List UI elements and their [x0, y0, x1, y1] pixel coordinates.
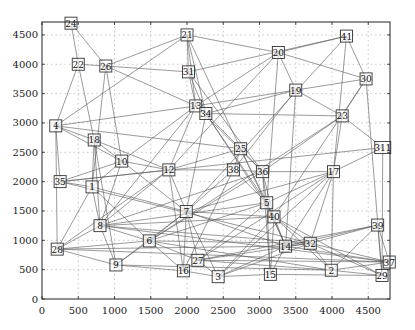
y-tick-label: 3000 — [13, 117, 38, 128]
y-tick-label: 4500 — [13, 29, 38, 40]
graph-node: 21 — [181, 29, 193, 41]
graph-edge — [57, 249, 116, 265]
graph-node: 17 — [327, 166, 339, 178]
node-label: 10 — [116, 157, 128, 167]
node-label: 4 — [53, 121, 59, 131]
x-tick-label: 2500 — [211, 305, 236, 316]
node-label: 40 — [268, 212, 280, 222]
graph-node: 34 — [200, 108, 212, 120]
graph-node: 10 — [116, 155, 128, 167]
node-label: 17 — [328, 167, 340, 177]
node-label: 30 — [360, 74, 372, 84]
graph-edge — [149, 203, 266, 241]
node-label: 311 — [374, 143, 391, 153]
graph-node: 23 — [336, 110, 348, 122]
node-label: 15 — [265, 270, 277, 280]
node-label: 36 — [257, 167, 269, 177]
graph-node: 6 — [143, 235, 155, 247]
y-tick-label: 1500 — [13, 205, 38, 216]
y-tick-label: 0 — [32, 294, 38, 305]
graph-node: 26 — [100, 60, 112, 72]
node-label: 31 — [183, 67, 194, 77]
graph-node: 37 — [383, 256, 395, 268]
node-label: 22 — [73, 60, 84, 70]
y-tick-label: 4000 — [13, 59, 38, 70]
x-tick-label: 1000 — [102, 305, 127, 316]
node-label: 19 — [290, 86, 302, 96]
graph-node: 5 — [261, 197, 273, 209]
y-tick-label: 3500 — [13, 88, 38, 99]
node-label: 14 — [280, 242, 292, 252]
node-label: 1 — [89, 182, 95, 192]
node-label: 5 — [264, 198, 270, 208]
graph-node: 20 — [272, 47, 284, 59]
node-label: 25 — [235, 144, 247, 154]
node-label: 26 — [100, 62, 112, 72]
graph-node: 28 — [51, 243, 63, 255]
node-label: 41 — [341, 32, 352, 42]
x-tick-label: 500 — [69, 305, 88, 316]
graph-node: 25 — [235, 143, 247, 155]
x-tick-label: 3500 — [283, 305, 308, 316]
graph-node: 38 — [227, 164, 239, 176]
graph-edge — [286, 90, 296, 246]
graph-node: 30 — [360, 73, 372, 85]
node-label: 29 — [376, 271, 388, 281]
x-tick-label: 4500 — [356, 305, 381, 316]
graph-edge — [278, 53, 366, 79]
y-tick-label: 2500 — [13, 147, 38, 158]
node-label: 28 — [51, 245, 63, 255]
graph-node: 12 — [163, 164, 175, 176]
node-label: 8 — [97, 221, 103, 231]
x-tick-label: 0 — [39, 305, 45, 316]
node-label: 3 — [215, 272, 221, 282]
graph-edge — [56, 64, 78, 126]
graph-edge — [94, 140, 169, 170]
graph-node: 16 — [177, 265, 189, 277]
graph-edge — [187, 35, 278, 53]
node-label: 35 — [54, 177, 66, 187]
node-label: 27 — [192, 256, 204, 266]
graph-edge — [149, 241, 198, 260]
y-tick-label: 2000 — [13, 176, 38, 187]
graph-node: 32 — [304, 237, 316, 249]
graph-node: 4 — [50, 120, 62, 132]
x-tick-label: 4000 — [319, 305, 344, 316]
graph-node: 29 — [376, 270, 388, 282]
graph-node: 18 — [88, 134, 100, 146]
graph-node: 24 — [65, 17, 77, 29]
graph-edge — [196, 90, 296, 106]
node-label: 16 — [178, 266, 190, 276]
node-label: 32 — [305, 239, 316, 249]
graph-edge — [149, 116, 342, 241]
node-label: 9 — [113, 260, 119, 270]
node-label: 20 — [273, 48, 285, 58]
node-label: 38 — [228, 165, 240, 175]
graph-edge — [274, 79, 366, 217]
graph-edge — [56, 106, 196, 126]
graph-edge — [382, 148, 383, 276]
graph-node: 36 — [256, 166, 268, 178]
graph-edge — [206, 90, 296, 113]
graph-edge — [106, 66, 122, 161]
graph-node: 9 — [110, 259, 122, 271]
node-label: 6 — [146, 236, 152, 246]
network-plot: 2422262131204130191334234183112510123836… — [0, 0, 415, 330]
node-label: 12 — [163, 165, 174, 175]
node-label: 23 — [336, 111, 348, 121]
node-label: 2 — [328, 266, 334, 276]
graph-node: 39 — [372, 219, 384, 231]
x-tick-label: 2000 — [174, 305, 199, 316]
x-tick-label: 1500 — [138, 305, 163, 316]
graph-edge — [56, 126, 241, 149]
graph-node: 22 — [72, 58, 84, 70]
node-label: 34 — [200, 109, 212, 119]
node-label: 37 — [384, 258, 396, 268]
node-label: 24 — [65, 19, 77, 29]
graph-edge — [218, 274, 270, 276]
graph-node: 27 — [192, 254, 204, 266]
graph-edge — [106, 66, 189, 72]
graph-edge — [57, 246, 285, 249]
graph-edge — [286, 246, 390, 262]
y-tick-label: 500 — [19, 264, 38, 275]
